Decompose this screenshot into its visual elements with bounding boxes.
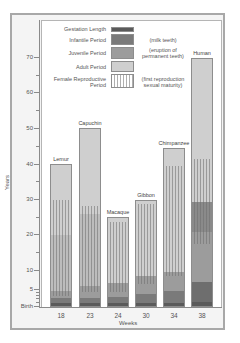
legend-swatch-adult [111, 61, 134, 72]
y-tick-birth [34, 306, 39, 307]
y-tick-40 [34, 164, 39, 165]
y-label-5: 5 [30, 286, 33, 292]
y-tick-minor [36, 217, 39, 218]
legend-label-reproductive: Female Reproductive Period [48, 76, 106, 88]
legend-swatch-reproductive [111, 74, 134, 88]
legend-swatch-juvenile [111, 47, 134, 59]
y-tick-10 [34, 270, 39, 271]
bar-gibbon [135, 200, 157, 307]
x-label-capuchin: 23 [79, 312, 101, 319]
y-label-40: 40 [26, 161, 33, 167]
bar-macaque [107, 217, 129, 307]
bar-label-human: Human [185, 50, 219, 56]
legend-swatch-gestation [111, 27, 134, 32]
y-label-10: 10 [26, 267, 33, 273]
legend-note-infantile: (milk teeth) [140, 37, 186, 43]
y-tick-20 [34, 234, 39, 235]
y-tick-50 [34, 128, 39, 129]
y-label-20: 20 [26, 231, 33, 237]
legend-label-gestation: Gestation Length [48, 26, 106, 32]
bar-lemur [50, 164, 72, 307]
legend-note-juvenile: (eruption of permanent teeth) [140, 47, 186, 59]
y-tick-minor [36, 302, 39, 303]
x-label-human: 38 [191, 312, 213, 319]
legend-swatch-infantile [111, 34, 134, 45]
bar-capuchin [79, 128, 101, 307]
x-axis-title: Weeks [119, 320, 137, 326]
y-label-60: 60 [26, 89, 33, 95]
bar-label-macaque: Macaque [101, 209, 135, 215]
y-axis [39, 20, 40, 307]
x-label-gibbon: 30 [135, 312, 157, 319]
y-tick-minor [36, 252, 39, 253]
y-tick-minor [36, 146, 39, 147]
legend-note-reproductive: (first reproduction sexual maturity) [140, 76, 186, 88]
legend-label-juvenile: Juvenile Period [48, 50, 106, 56]
y-tick-30 [34, 199, 39, 200]
bar-human [191, 58, 213, 307]
bar-label-capuchin: Capuchin [73, 120, 107, 126]
legend-label-infantile: Infantile Period [48, 37, 106, 43]
y-label-birth: Birth [21, 303, 33, 309]
y-tick-minor [36, 298, 39, 299]
y-axis-title: Years [4, 175, 10, 190]
y-tick-5 [34, 289, 39, 290]
y-tick-minor [36, 110, 39, 111]
bar-chimpanzee [163, 148, 185, 307]
x-label-chimpanzee: 34 [163, 312, 185, 319]
y-tick-60 [34, 92, 39, 93]
legend-label-adult: Adult Period [48, 64, 106, 70]
x-axis [39, 307, 222, 308]
x-label-lemur: 18 [50, 312, 72, 319]
bar-label-chimpanzee: Chimpanzee [157, 140, 191, 146]
x-label-macaque: 24 [107, 312, 129, 319]
bar-label-gibbon: Gibbon [129, 192, 163, 198]
y-label-50: 50 [26, 125, 33, 131]
y-label-30: 30 [26, 196, 33, 202]
y-tick-70 [34, 57, 39, 58]
y-tick-minor [36, 292, 39, 293]
y-label-70: 70 [26, 54, 33, 60]
y-tick-minor [36, 75, 39, 76]
y-tick-minor [36, 295, 39, 296]
y-tick-minor [36, 181, 39, 182]
bar-label-lemur: Lemur [44, 156, 78, 162]
